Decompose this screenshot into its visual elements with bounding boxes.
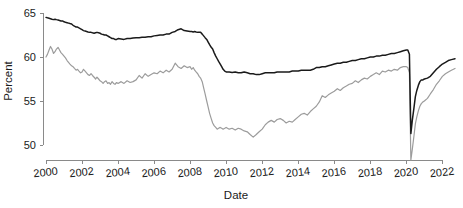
x-tick-label: 2008: [177, 165, 203, 179]
x-tick-label: 2002: [69, 165, 95, 179]
series-group: [46, 17, 455, 160]
y-tick-group: 50556065: [24, 7, 43, 151]
y-tick-label: 60: [24, 51, 36, 63]
y-tick-label: 65: [24, 7, 36, 19]
x-tick-label: 2014: [285, 165, 311, 179]
x-axis-title: Date: [224, 189, 248, 201]
chart-container: 50556065 2000200220042006200820102012201…: [0, 0, 463, 208]
series-line-secondary-series: [46, 46, 455, 160]
x-tick-label: 2016: [321, 165, 347, 179]
line-chart: 50556065 2000200220042006200820102012201…: [0, 0, 463, 208]
x-axis: 2000200220042006200820102012201420162018…: [33, 160, 455, 179]
x-tick-label: 2000: [33, 165, 59, 179]
x-tick-label: 2004: [105, 165, 131, 179]
y-tick-label: 50: [24, 139, 36, 151]
x-tick-label: 2020: [393, 165, 419, 179]
x-tick-label: 2022: [429, 165, 455, 179]
series-line-primary-series: [46, 17, 455, 133]
x-tick-label: 2010: [213, 165, 239, 179]
x-tick-label: 2018: [357, 165, 383, 179]
y-axis: 50556065: [24, 7, 43, 151]
y-axis-title: Percent: [2, 60, 14, 100]
y-tick-label: 55: [24, 95, 36, 107]
x-tick-label: 2012: [249, 165, 275, 179]
x-tick-label: 2006: [141, 165, 167, 179]
x-tick-group: 2000200220042006200820102012201420162018…: [33, 160, 455, 179]
